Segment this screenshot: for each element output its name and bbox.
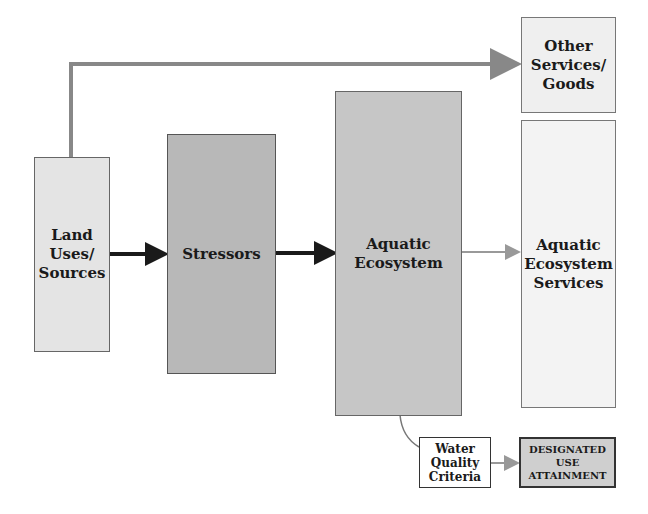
node-label: Other Services/ Goods: [529, 37, 609, 94]
node-label: Land Uses/ Sources: [37, 226, 107, 283]
node-water-quality-criteria: Water Quality Criteria: [419, 437, 491, 488]
node-label: Stressors: [182, 245, 260, 263]
node-aquatic-ecosystem-services: Aquatic Ecosystem Services: [521, 120, 616, 408]
node-label: Water Quality Criteria: [425, 442, 485, 484]
node-label: DESIGNATED USE ATTAINMENT: [522, 443, 614, 482]
node-land-uses-sources: Land Uses/ Sources: [34, 157, 110, 352]
node-stressors: Stressors: [167, 134, 276, 374]
node-label: Aquatic Ecosystem: [349, 235, 449, 273]
connector-aquatic-to-wqc: [400, 415, 419, 447]
node-designated-use-attainment: DESIGNATED USE ATTAINMENT: [519, 437, 616, 488]
node-aquatic-ecosystem: Aquatic Ecosystem: [335, 91, 462, 416]
node-label: Aquatic Ecosystem Services: [524, 236, 614, 293]
node-other-services-goods: Other Services/ Goods: [521, 17, 616, 113]
